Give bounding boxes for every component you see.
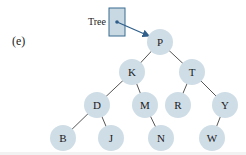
tree-node-M: M (132, 92, 158, 118)
edge-T-R (182, 82, 187, 95)
node-label: D (93, 99, 101, 111)
bottom-divider (0, 152, 246, 155)
node-label: N (157, 132, 165, 144)
edge-D-J (101, 115, 106, 128)
edge-D-B (71, 113, 89, 131)
edge-P-T (168, 50, 184, 65)
node-label: P (157, 36, 163, 48)
tree-node-D: D (84, 92, 110, 118)
node-label: M (140, 99, 150, 111)
node-label: B (59, 132, 66, 144)
node-label: R (174, 99, 182, 111)
tree-node-Y: Y (212, 92, 238, 118)
tree-pointer-label: Tree (88, 16, 107, 27)
edge-M-N (150, 115, 156, 128)
node-label: T (189, 66, 196, 78)
tree-node-N: N (148, 125, 174, 151)
edge-P-K (140, 50, 153, 64)
tree-node-P: P (147, 29, 173, 55)
node-label: K (128, 66, 136, 78)
tree-svg: Tree PKTDMRYBJNW (0, 0, 246, 155)
tree-node-R: R (165, 92, 191, 118)
edge-Y-W (216, 115, 221, 128)
tree-node-B: B (50, 125, 76, 151)
node-label: Y (221, 99, 229, 111)
node-label: W (207, 132, 218, 144)
tree-node-W: W (199, 125, 225, 151)
edge-K-D (105, 80, 124, 98)
tree-node-T: T (179, 59, 205, 85)
tree-node-J: J (98, 125, 124, 151)
edge-K-M (136, 82, 141, 95)
tree-node-K: K (119, 59, 145, 85)
binary-search-tree-diagram: (e) Tree PKTDMRYBJNW (0, 0, 246, 155)
node-label: J (109, 132, 114, 144)
root-pointer: Tree (88, 8, 149, 36)
edge-T-Y (200, 80, 217, 97)
